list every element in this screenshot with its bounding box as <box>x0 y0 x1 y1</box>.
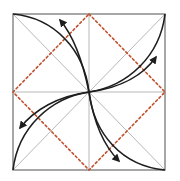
arrow-top-right-icon <box>89 57 156 92</box>
diagram-svg <box>0 0 180 181</box>
arrow-top-left-icon <box>60 20 89 92</box>
origami-diagram <box>0 0 180 181</box>
arrow-bottom-right-icon <box>89 92 119 161</box>
